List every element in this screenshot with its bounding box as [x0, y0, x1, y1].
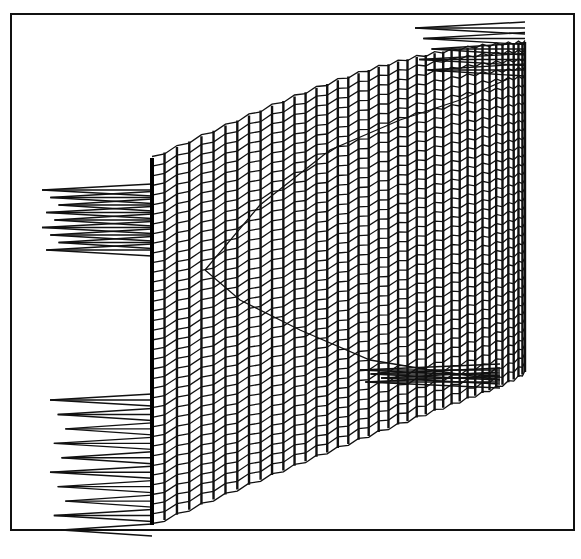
lower-left-fan — [50, 394, 152, 536]
surface-vertical-gridlines — [152, 42, 525, 525]
upper-left-fan — [42, 184, 152, 256]
wireframe-surface-plot — [0, 0, 581, 559]
